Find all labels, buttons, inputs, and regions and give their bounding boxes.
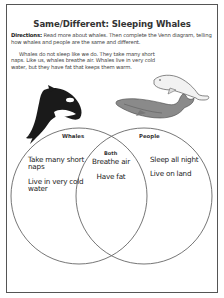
both-list: Breathe air Have fat <box>86 158 136 189</box>
people-item: Sleep all night <box>150 156 200 163</box>
people-list: Sleep all night Live on land <box>150 156 200 185</box>
both-item: Have fat <box>86 173 136 180</box>
people-item: Live on land <box>150 170 200 177</box>
whales-list: Take many short naps Live in very cold w… <box>28 156 88 200</box>
whales-item: Take many short naps <box>28 156 88 171</box>
humpback-whale-illustration <box>116 94 194 118</box>
whales-label: Whales <box>62 133 84 139</box>
people-label: People <box>139 133 160 139</box>
people-circle <box>76 128 212 264</box>
both-item: Breathe air <box>86 158 136 165</box>
whales-item: Live in very cold water <box>28 178 88 193</box>
both-label: Both <box>104 150 117 156</box>
venn-diagram <box>0 0 224 298</box>
